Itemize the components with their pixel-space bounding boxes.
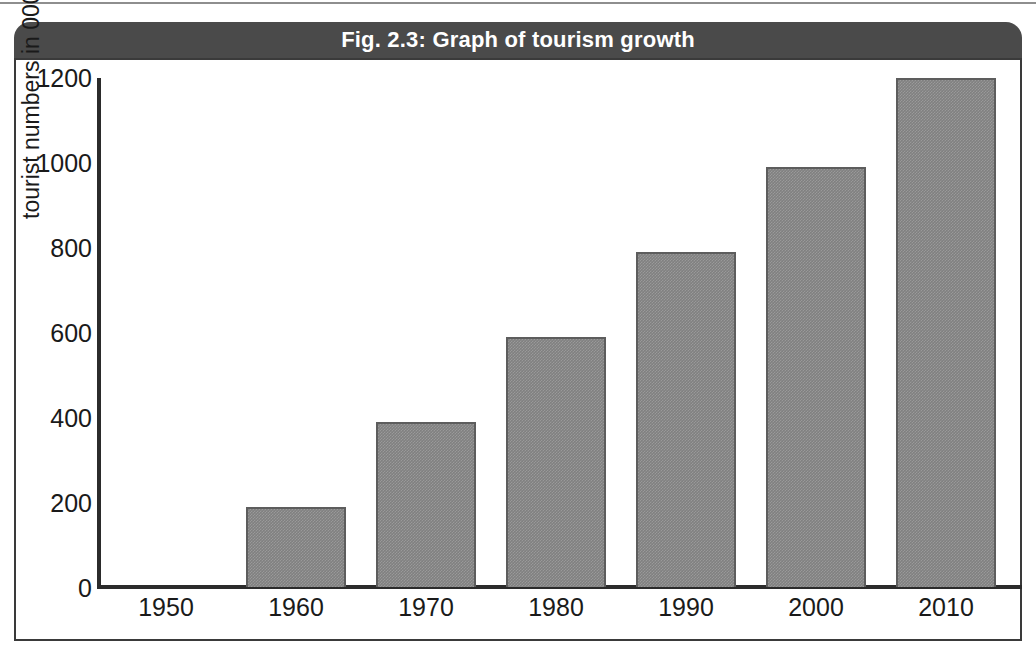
x-tick-label-1960: 1960 [246, 595, 346, 620]
y-tick-label: 200 [4, 491, 92, 516]
figure-caption-bar: Fig. 2.3: Graph of tourism growth [14, 22, 1022, 58]
bar-slot-1990 [636, 78, 736, 587]
y-tick-label: 0 [4, 576, 92, 601]
x-tick-label-1990: 1990 [636, 595, 736, 620]
bar-2010[interactable] [896, 78, 996, 587]
x-tick-label-2000: 2000 [766, 595, 866, 620]
bar-slot-2000 [766, 78, 866, 587]
y-tick-label: 400 [4, 406, 92, 431]
y-axis-tick-labels: 1200 1000 800 600 400 200 0 [0, 0, 92, 661]
page-top-rule [0, 2, 1036, 4]
y-tick-label: 600 [4, 321, 92, 346]
bar-1990[interactable] [636, 252, 736, 587]
chart-plot-area [101, 78, 1022, 587]
bar-1970[interactable] [376, 422, 476, 587]
x-tick-label-2010: 2010 [896, 595, 996, 620]
figure-container: Fig. 2.3: Graph of tourism growth touris… [0, 0, 1036, 661]
bar-slot-1960 [246, 78, 346, 587]
y-tick-label: 1200 [4, 66, 92, 91]
figure-caption-text: Fig. 2.3: Graph of tourism growth [341, 29, 695, 51]
y-tick-label: 1000 [4, 151, 92, 176]
x-tick-label-1980: 1980 [506, 595, 606, 620]
x-tick-label-1970: 1970 [376, 595, 476, 620]
x-tick-label-1950: 1950 [116, 595, 216, 620]
bar-1980[interactable] [506, 337, 606, 587]
bar-2000[interactable] [766, 167, 866, 587]
y-tick-label: 800 [4, 236, 92, 261]
bar-slot-1970 [376, 78, 476, 587]
bar-slot-1980 [506, 78, 606, 587]
bar-slot-2010 [896, 78, 996, 587]
bar-1960[interactable] [246, 507, 346, 587]
bar-slot-1950 [116, 78, 216, 587]
x-axis-tick-labels: 1950 1960 1970 1980 1990 2000 2010 [101, 595, 1022, 635]
